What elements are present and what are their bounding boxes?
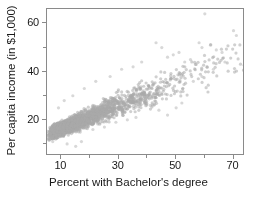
x-axis-title: Percent with Bachelor's degree	[0, 176, 257, 189]
scatter-points-layer	[47, 9, 244, 155]
y-tick-major	[42, 119, 46, 120]
y-tick-major	[42, 71, 46, 72]
x-tick-minor	[204, 155, 205, 158]
y-tick-minor	[43, 143, 46, 144]
y-tick-minor	[43, 95, 46, 96]
y-tick-major	[42, 22, 46, 23]
y-tick-label: 20	[15, 114, 39, 125]
x-tick-label: 70	[220, 160, 246, 171]
x-tick-label: 30	[105, 160, 131, 171]
y-tick-minor	[43, 47, 46, 48]
x-tick-label: 50	[162, 160, 188, 171]
y-tick-label: 60	[15, 17, 39, 28]
x-tick-minor	[89, 155, 90, 158]
x-tick-label: 10	[47, 160, 73, 171]
y-tick-label: 40	[15, 66, 39, 77]
plot-area	[46, 8, 244, 155]
y-axis-title: Per capita income (in $1,000)	[5, 1, 18, 161]
scatter-plot-figure: 20406010305070 Per capita income (in $1,…	[0, 0, 257, 198]
x-tick-minor	[146, 155, 147, 158]
